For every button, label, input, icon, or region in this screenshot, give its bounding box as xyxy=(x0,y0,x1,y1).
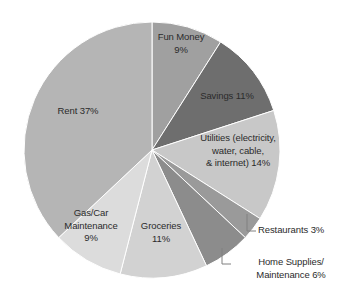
pie-label-rent: Rent 37% xyxy=(36,105,120,118)
pie-label-groceries: Groceries 11% xyxy=(128,220,194,245)
pie-label-fun-money: Fun Money 9% xyxy=(138,31,224,56)
pie-label-home-supplies: Home Supplies/ Maintenance 6% xyxy=(228,256,354,281)
pie-chart: Fun Money 9% Savings 11% Utilities (elec… xyxy=(0,0,356,299)
pie-label-utilities: Utilities (electricity, water, cable, & … xyxy=(184,132,292,170)
pie-label-restaurants: Restaurants 3% xyxy=(258,224,354,237)
pie-label-gas-car-maintenance: Gas/Car Maintenance 9% xyxy=(51,207,131,245)
pie-label-savings: Savings 11% xyxy=(186,90,268,103)
